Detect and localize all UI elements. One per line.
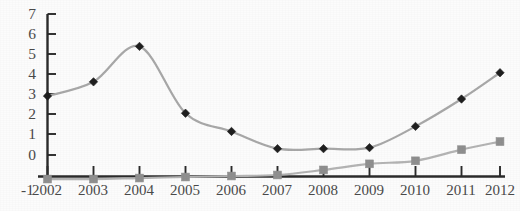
series-2-point-2006 [228, 172, 236, 180]
series-1-point-2008 [319, 144, 327, 152]
y-tick-label-5: 5 [14, 46, 36, 62]
series-2-point-2004 [136, 174, 144, 182]
x-tick-label-2008: 2008 [301, 183, 345, 198]
series-2-point-2011 [458, 146, 466, 154]
x-tick-label-2003: 2003 [71, 183, 115, 198]
x-tick-label-2006: 2006 [209, 183, 253, 198]
line-chart: 7 6 5 4 3 2 1 0 -1 2002 2003 2004 2005 2… [0, 0, 520, 211]
series-1-line [48, 46, 501, 150]
series-2-point-2005 [182, 173, 190, 181]
series-2-point-2009 [366, 160, 374, 168]
y-axis-ticks [48, 14, 57, 155]
y-tick-label-7: 7 [14, 6, 36, 22]
series-2-point-2008 [320, 166, 328, 174]
x-tick-label-2002: 2002 [25, 183, 69, 198]
y-tick-label-6: 6 [14, 26, 36, 42]
x-tick-label-2010: 2010 [393, 183, 437, 198]
x-tick-label-2005: 2005 [163, 183, 207, 198]
y-tick-label-2: 2 [14, 106, 36, 122]
series-1-markers [43, 42, 504, 153]
x-tick-label-2012: 2012 [478, 183, 520, 198]
x-tick-label-2009: 2009 [347, 183, 391, 198]
chart-plot-area [0, 0, 520, 211]
y-tick-label-1: 1 [14, 126, 36, 142]
series-2-point-2007 [274, 171, 282, 179]
series-1-point-2007 [273, 144, 281, 152]
series-1-point-2009 [365, 143, 373, 151]
series-1-point-2006 [227, 127, 235, 135]
series-1-point-2010 [411, 122, 419, 130]
y-tick-label-4: 4 [14, 66, 36, 82]
series-2-point-2010 [412, 157, 420, 165]
x-tick-label-2011: 2011 [439, 183, 483, 198]
y-tick-label-3: 3 [14, 86, 36, 102]
series-1-point-2004 [135, 42, 143, 50]
y-tick-label-0: 0 [14, 147, 36, 163]
x-tick-label-2007: 2007 [255, 183, 299, 198]
series-2-point-2012 [496, 138, 504, 146]
x-tick-label-2004: 2004 [117, 183, 161, 198]
